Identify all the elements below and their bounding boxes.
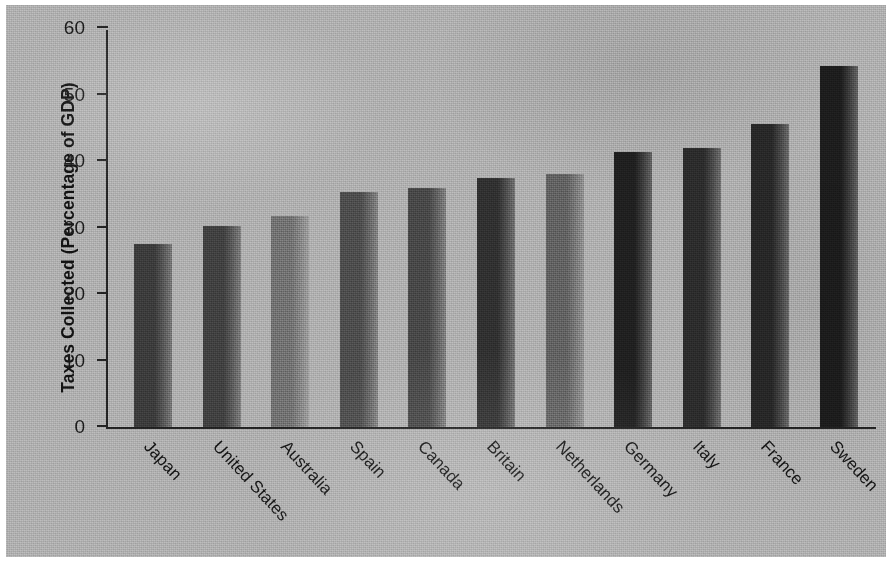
bar-sweden — [820, 66, 858, 427]
bar-united-states — [203, 226, 241, 427]
bar-canada — [408, 188, 446, 427]
chart-figure: Taxes Collected (Percentage of GDP) 0102… — [0, 0, 892, 564]
x-axis-label-canada: Canada — [414, 437, 469, 494]
bar-fill — [820, 66, 858, 427]
bar-fill — [751, 124, 789, 427]
x-axis-label-france: France — [757, 437, 808, 489]
y-tick-label: 20 — [64, 283, 85, 305]
y-tick-60: 60 — [97, 26, 108, 28]
x-axis-label-netherlands: Netherlands — [551, 437, 628, 518]
y-tick-label: 60 — [64, 17, 85, 39]
x-axis-label-australia: Australia — [277, 437, 337, 499]
y-tick-label: 0 — [74, 416, 85, 438]
bar-fill — [614, 152, 652, 427]
x-axis-label-sweden: Sweden — [825, 437, 882, 496]
y-tick-label: 50 — [64, 84, 85, 106]
x-axis-label-italy: Italy — [688, 437, 724, 473]
scanned-paper-background: Taxes Collected (Percentage of GDP) 0102… — [6, 5, 886, 557]
bar-japan — [134, 244, 172, 427]
bar-australia — [271, 216, 309, 427]
y-tick-40: 40 — [97, 159, 108, 161]
y-tick-30: 30 — [97, 226, 108, 228]
bar-spain — [340, 192, 378, 427]
x-axis-label-spain: Spain — [345, 437, 389, 482]
bar-fill — [477, 178, 515, 427]
bar-fill — [546, 174, 584, 427]
y-tick-50: 50 — [97, 93, 108, 95]
bar-france — [751, 124, 789, 427]
y-tick-10: 10 — [97, 359, 108, 361]
bar-fill — [271, 216, 309, 427]
x-axis-label-germany: Germany — [620, 437, 682, 502]
x-axis-label-japan: Japan — [139, 437, 185, 485]
y-tick-label: 10 — [64, 350, 85, 372]
bar-fill — [203, 226, 241, 427]
bar-italy — [683, 148, 721, 427]
x-axis-label-britain: Britain — [482, 437, 529, 486]
bar-germany — [614, 152, 652, 427]
y-tick-label: 40 — [64, 150, 85, 172]
y-tick-0: 0 — [97, 425, 108, 427]
bar-fill — [134, 244, 172, 427]
bar-fill — [340, 192, 378, 427]
bar-netherlands — [546, 174, 584, 427]
bar-britain — [477, 178, 515, 427]
bar-fill — [408, 188, 446, 427]
plot-area: 0102030405060 — [106, 30, 876, 429]
bar-fill — [683, 148, 721, 427]
y-tick-20: 20 — [97, 292, 108, 294]
y-tick-label: 30 — [64, 217, 85, 239]
